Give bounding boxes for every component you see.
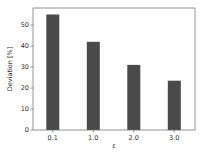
y-tick-label: 50: [21, 21, 29, 29]
y-tick-label: 10: [21, 105, 29, 113]
y-tick-label: 20: [21, 84, 29, 92]
x-tick-label: 0.1: [48, 134, 58, 142]
x-tick-label: 1.0: [88, 134, 98, 142]
y-axis-label: Deviation [%]: [6, 47, 14, 91]
y-tick-label: 40: [21, 42, 29, 50]
bars-group: [46, 15, 181, 131]
y-axis-ticks: 01020304050: [21, 21, 33, 134]
x-axis-label: ε: [112, 142, 116, 150]
x-tick-label: 2.0: [129, 134, 139, 142]
x-axis-ticks: 0.11.02.03.0: [48, 130, 180, 142]
bar-0.1: [46, 15, 59, 131]
bar-2.0: [127, 65, 140, 130]
y-tick-label: 0: [25, 126, 29, 134]
x-tick-label: 3.0: [169, 134, 179, 142]
bar-chart: 01020304050 0.11.02.03.0 ε Deviation [%]: [0, 0, 207, 157]
y-tick-label: 30: [21, 63, 29, 71]
bar-3.0: [168, 81, 181, 130]
bar-1.0: [87, 42, 100, 130]
